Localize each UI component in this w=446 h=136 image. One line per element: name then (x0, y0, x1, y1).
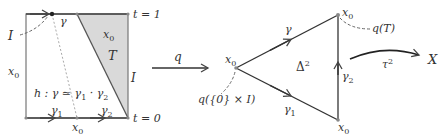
label-T: T (108, 48, 118, 63)
label-gamma2: γ2 (342, 70, 354, 85)
label-gamma1: γ1 (284, 103, 296, 118)
label-t1: t = 1 (133, 8, 161, 21)
top-vertex-dot (50, 12, 54, 16)
gamma-arrowhead (270, 39, 291, 50)
label-q: q (174, 50, 182, 64)
bottom-right-dot (126, 116, 129, 119)
label-x0-left: x0 (8, 65, 19, 80)
qT-dashed (340, 18, 370, 29)
top-corner-dot (75, 12, 78, 15)
label-qT: q(T) (372, 22, 395, 35)
map-q: q (152, 50, 208, 68)
label-X: X (427, 52, 438, 67)
label-x0-bottom: x0 (72, 121, 83, 136)
top-right-dot (126, 12, 129, 15)
square-domain: I γ t = 1 t = 0 x0 x0 T I h : γ ≃ γ1 · γ… (7, 8, 161, 136)
label-x0-bottom-vertex: x0 (338, 121, 349, 136)
label-I-left: I (7, 28, 14, 43)
bottom-mid-dot (75, 116, 78, 119)
label-gamma1: γ1 (51, 104, 63, 119)
gamma1-arrowhead (270, 85, 291, 96)
bottom-left-dot (24, 116, 27, 119)
label-gamma2: γ2 (101, 104, 113, 119)
homotopy-dashed-line (52, 14, 77, 118)
label-gamma: γ (285, 23, 292, 36)
vertex-top (336, 13, 340, 17)
q0I-dashed (221, 72, 235, 94)
label-x0-top-vertex: x0 (342, 6, 353, 21)
label-q0I: q({0} × I) (198, 93, 255, 106)
label-x0-left-vertex: x0 (225, 53, 236, 68)
label-tau2: τ2 (382, 57, 393, 71)
label-gamma-top: γ (60, 15, 67, 28)
simplex-delta2: x0 x0 x0 γ γ1 γ2 Δ2 q(T) q({0} × I) (198, 6, 395, 136)
I-pointer-dashed (20, 16, 48, 35)
map-tau2: τ2 X (350, 50, 438, 71)
label-homotopy: h : γ ≃ γ1 · γ2 (34, 87, 108, 102)
label-I-right: I (130, 71, 136, 85)
label-delta2: Δ2 (296, 59, 310, 74)
homotopy-diagram: I γ t = 1 t = 0 x0 x0 T I h : γ ≃ γ1 · γ… (0, 0, 446, 136)
label-t0: t = 0 (133, 112, 161, 125)
